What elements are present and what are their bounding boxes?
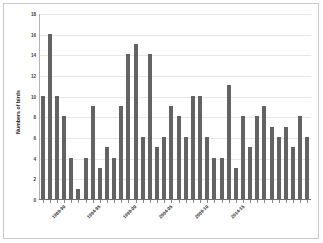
x-axis-tick xyxy=(114,200,115,203)
x-axis-tick xyxy=(293,200,294,203)
x-axis-tick xyxy=(179,200,180,203)
bar xyxy=(134,44,138,199)
x-axis-tick xyxy=(250,200,251,203)
bar xyxy=(212,158,216,199)
bar xyxy=(255,116,259,199)
bar xyxy=(62,116,66,199)
bar xyxy=(284,127,288,199)
x-axis-tick xyxy=(222,200,223,203)
x-axis-tick-label: 1994-95 xyxy=(86,204,102,220)
x-axis-tick xyxy=(272,200,273,203)
x-axis-tick xyxy=(307,200,308,203)
bar xyxy=(76,189,80,199)
y-axis-tick-label: 12 xyxy=(31,74,36,79)
x-axis-tick xyxy=(264,200,265,203)
y-axis-tick-label: 16 xyxy=(31,32,36,37)
x-axis-tick xyxy=(300,200,301,203)
y-axis-tick-label: 6 xyxy=(33,136,36,141)
bar xyxy=(220,158,224,199)
x-axis-tick xyxy=(171,200,172,203)
y-axis-tick-label: 2 xyxy=(33,177,36,182)
bar xyxy=(227,85,231,199)
x-axis-tick xyxy=(207,200,208,203)
x-axis-tick-label: 1989-90 xyxy=(51,204,67,220)
y-axis-tick-label: 14 xyxy=(31,53,36,58)
y-axis-tick-label: 8 xyxy=(33,115,36,120)
bar xyxy=(241,116,245,199)
bar xyxy=(191,96,195,199)
bar xyxy=(141,137,145,199)
x-axis-tick xyxy=(286,200,287,203)
bar xyxy=(169,106,173,199)
bar xyxy=(98,168,102,199)
x-axis-tick-label: 1999-00 xyxy=(122,204,138,220)
x-axis-tick xyxy=(136,200,137,203)
x-axis-tick xyxy=(93,200,94,203)
x-axis-tick xyxy=(128,200,129,203)
bar xyxy=(91,106,95,199)
y-axis-tick-label: 10 xyxy=(31,94,36,99)
x-axis-tick xyxy=(157,200,158,203)
x-axis-tick xyxy=(279,200,280,203)
bar xyxy=(162,137,166,199)
bar-chart-figure: Numbers of birds 024681012141618 1989-90… xyxy=(0,0,323,243)
x-axis-tick xyxy=(236,200,237,203)
x-axis-tick xyxy=(214,200,215,203)
x-axis-tick xyxy=(257,200,258,203)
plot-area: 024681012141618 xyxy=(39,14,311,200)
x-axis-tick xyxy=(164,200,165,203)
x-axis-tick xyxy=(243,200,244,203)
bar xyxy=(262,106,266,199)
x-axis-tick xyxy=(229,200,230,203)
bar xyxy=(48,34,52,199)
bars-group xyxy=(39,14,311,200)
x-axis-tick xyxy=(200,200,201,203)
bar xyxy=(291,147,295,199)
bar xyxy=(298,116,302,199)
bar xyxy=(305,137,309,199)
bar xyxy=(234,168,238,199)
x-axis-tick xyxy=(107,200,108,203)
x-axis-labels-group: 1989-901994-951999-002004-052009-102014-… xyxy=(39,204,311,240)
x-axis-tick xyxy=(50,200,51,203)
y-axis-title: Numbers of birds xyxy=(14,52,23,172)
bar xyxy=(177,116,181,199)
bar xyxy=(198,96,202,199)
y-axis-tick-label: 0 xyxy=(33,198,36,203)
x-axis-tick xyxy=(86,200,87,203)
bar xyxy=(205,137,209,199)
bar xyxy=(69,158,73,199)
bar xyxy=(41,96,45,199)
x-axis-tick-label: 2014-15 xyxy=(229,204,245,220)
x-axis-tick-label: 2004-05 xyxy=(158,204,174,220)
bar xyxy=(112,158,116,199)
bar xyxy=(126,54,130,199)
x-axis-tick xyxy=(193,200,194,203)
x-axis-tick xyxy=(143,200,144,203)
bar xyxy=(148,54,152,199)
x-axis-tick xyxy=(121,200,122,203)
bar xyxy=(277,137,281,199)
x-axis-tick xyxy=(71,200,72,203)
bar xyxy=(119,106,123,199)
x-axis-tick xyxy=(64,200,65,203)
x-axis-tick xyxy=(150,200,151,203)
bar xyxy=(248,147,252,199)
y-axis-tick-label: 18 xyxy=(31,12,36,17)
y-axis-tick-label: 4 xyxy=(33,156,36,161)
x-axis-tick xyxy=(186,200,187,203)
bar xyxy=(270,127,274,199)
x-axis-tick xyxy=(78,200,79,203)
bar xyxy=(84,158,88,199)
x-axis-tick xyxy=(100,200,101,203)
bar xyxy=(155,147,159,199)
bar xyxy=(184,137,188,199)
x-axis-tick xyxy=(57,200,58,203)
bar xyxy=(55,96,59,199)
x-axis-tick xyxy=(43,200,44,203)
bar xyxy=(105,147,109,199)
x-axis-tick-label: 2009-10 xyxy=(194,204,210,220)
